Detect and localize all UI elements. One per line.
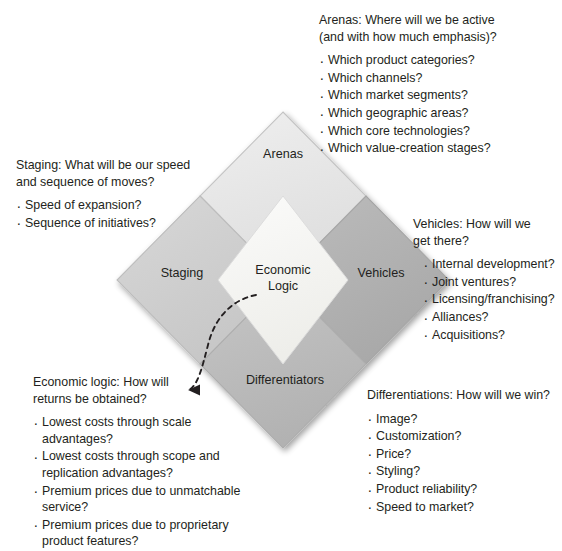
arenas-question-list: Which product categories?Which channels?… — [319, 52, 555, 157]
differentiators-label: Differentiators — [230, 372, 340, 388]
economic-logic-heading: Economic logic: How will returns be obta… — [33, 374, 243, 407]
question-item: Image? — [367, 411, 562, 428]
vehicles-heading: Vehicles: How will we get there? — [413, 216, 562, 249]
question-item: Which product categories? — [319, 52, 555, 69]
question-item: Premium prices due to proprietary produc… — [33, 517, 243, 550]
question-item: Alliances? — [423, 309, 562, 326]
question-item: Licensing/franchising? — [423, 291, 562, 308]
question-item: Premium prices due to unmatchable servic… — [33, 483, 243, 516]
question-item: Product reliability? — [367, 481, 562, 498]
vehicles-label: Vehicles — [339, 265, 423, 281]
staging-text-block: Staging: What will be our speed and sequ… — [16, 157, 206, 232]
question-item: Which value-creation stages? — [319, 140, 555, 157]
arenas-label: Arenas — [243, 146, 323, 162]
differentiations-text-block: Differentiations: How will we win? Image… — [367, 387, 562, 516]
question-item: Which core technologies? — [319, 123, 555, 140]
question-item: Which channels? — [319, 70, 555, 87]
question-item: Price? — [367, 446, 562, 463]
question-item: Lowest costs through scale advantages? — [33, 414, 243, 447]
arenas-heading: Arenas: Where will we be active (and wit… — [319, 12, 555, 45]
staging-heading: Staging: What will be our speed and sequ… — [16, 157, 206, 190]
economic-logic-text-block: Economic logic: How will returns be obta… — [33, 374, 243, 551]
question-item: Which market segments? — [319, 87, 555, 104]
economic-logic-label: Economic Logic — [243, 262, 323, 294]
vehicles-text-block: Vehicles: How will we get there? Interna… — [413, 216, 562, 344]
differentiations-question-list: Image?Customization?Price?Styling?Produc… — [367, 411, 562, 516]
question-item: Styling? — [367, 463, 562, 480]
question-item: Lowest costs through scope and replicati… — [33, 448, 243, 481]
question-item: Joint ventures? — [423, 274, 562, 291]
question-item: Acquisitions? — [423, 327, 562, 344]
question-item: Speed of expansion? — [16, 197, 206, 214]
staging-label: Staging — [140, 265, 224, 281]
question-item: Speed to market? — [367, 499, 562, 516]
question-item: Customization? — [367, 428, 562, 445]
question-item: Sequence of initiatives? — [16, 215, 206, 232]
differentiations-heading: Differentiations: How will we win? — [367, 387, 562, 404]
question-item: Which geographic areas? — [319, 105, 555, 122]
vehicles-question-list: Internal development?Joint ventures?Lice… — [423, 256, 562, 343]
arenas-text-block: Arenas: Where will we be active (and wit… — [319, 12, 555, 158]
economic-logic-question-list: Lowest costs through scale advantages?Lo… — [33, 414, 243, 550]
staging-question-list: Speed of expansion?Sequence of initiativ… — [16, 197, 206, 231]
question-item: Internal development? — [423, 256, 562, 273]
